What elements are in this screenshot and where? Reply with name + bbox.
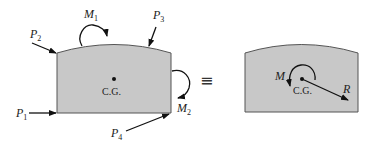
center-of-gravity-dot xyxy=(112,77,116,81)
svg-text:M: M xyxy=(274,69,286,83)
cg-label-right: C.G. xyxy=(293,85,312,96)
svg-text:P3: P3 xyxy=(152,8,164,24)
moment-m1: M1 xyxy=(80,7,107,46)
force-p2: P2 xyxy=(29,27,56,53)
cg-label-left: C.G. xyxy=(102,86,121,97)
force-p4: P4 xyxy=(110,114,169,142)
equivalent-force-system-diagram: C.G. P1 P2 P3 P4 M1 M2 ≡ C.G. M xyxy=(0,0,379,148)
force-p1: P1 xyxy=(15,106,56,122)
left-rigid-body: C.G. xyxy=(57,45,171,114)
svg-text:R: R xyxy=(342,82,351,96)
equivalence-symbol: ≡ xyxy=(200,71,213,90)
force-arrow-icon xyxy=(149,27,156,46)
moment-m2: M2 xyxy=(172,70,191,117)
right-rigid-body: C.G. xyxy=(245,45,358,113)
svg-text:P4: P4 xyxy=(110,126,122,142)
svg-text:P2: P2 xyxy=(29,27,41,43)
force-arrow-icon xyxy=(126,114,169,131)
moment-arrow-icon xyxy=(172,70,190,98)
moment-arrow-icon xyxy=(80,25,107,46)
force-arrow-icon xyxy=(32,43,56,53)
force-p3: P3 xyxy=(149,8,164,46)
svg-text:P1: P1 xyxy=(15,106,27,122)
svg-text:M2: M2 xyxy=(176,101,191,117)
svg-text:M1: M1 xyxy=(83,7,98,23)
